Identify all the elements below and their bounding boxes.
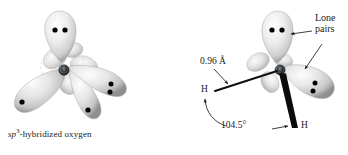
- hydrogen-left-label: H: [201, 85, 208, 95]
- hydrogen-right-label: H: [301, 121, 308, 131]
- left-model-left-lobe: [14, 68, 65, 112]
- electron-dot: [311, 89, 316, 94]
- bond-angle-label: 104.5°: [221, 121, 246, 131]
- electron-dot: [313, 81, 318, 86]
- lone-pairs-label: Lone pairs: [315, 12, 336, 34]
- electron-dot: [269, 27, 274, 32]
- bond-length-leader: [214, 69, 228, 84]
- lone-pairs-label-line2: pairs: [315, 23, 336, 34]
- electron-dot: [52, 27, 57, 32]
- bond-angle-leader: [272, 126, 288, 129]
- orbital-figure: sp3-hybridized oxygen O O 0.96 Å H H 104…: [0, 0, 348, 155]
- left-orbital-model: [14, 11, 126, 119]
- electron-dot: [109, 82, 114, 87]
- electron-dot: [85, 107, 90, 112]
- right-model-right-lobe: [285, 65, 334, 99]
- left-panel-caption: sp3-hybridized oxygen: [8, 130, 92, 139]
- electron-dot: [279, 27, 284, 32]
- right-oxygen-label: O: [277, 65, 283, 74]
- back-lobe-left: [243, 49, 272, 75]
- caption-suffix: -hybridized oxygen: [20, 129, 92, 139]
- electron-dot: [108, 90, 113, 95]
- lone-pairs-label-line1: Lone: [315, 12, 336, 23]
- left-oxygen-label: O: [61, 65, 67, 74]
- caption-hybridization-prefix: sp: [8, 129, 16, 139]
- electron-dot: [62, 27, 67, 32]
- lone-pairs-leader-top: [291, 31, 312, 34]
- bond-length-label: 0.96 Å: [200, 57, 226, 67]
- electron-dot: [19, 99, 24, 104]
- lone-pairs-leader-right: [305, 44, 322, 69]
